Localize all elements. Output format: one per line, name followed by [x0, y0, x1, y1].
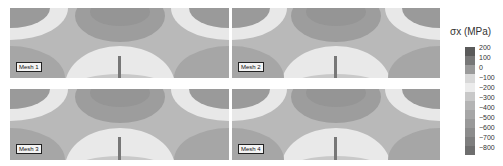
mesh-label: Mesh 1: [16, 62, 42, 72]
colorbar-tick: −700: [479, 134, 495, 142]
contour-panel-mesh-2: Mesh 2: [232, 8, 440, 78]
colorbar-tick: −300: [479, 94, 495, 102]
colorbar-tick: −400: [479, 104, 495, 112]
colorbar-tick: −600: [479, 124, 495, 132]
stress-contour-plot: [10, 8, 229, 78]
colorbar-tick: 200: [479, 44, 491, 52]
colorbar-tick: −100: [479, 74, 495, 82]
colorbar-tick: −200: [479, 84, 495, 92]
colorbar: [465, 47, 475, 155]
colorbar-tick: −800: [479, 144, 495, 152]
contour-panel-mesh-3: Mesh 3: [10, 89, 229, 160]
colorbar-tick: 100: [479, 54, 491, 62]
stress-contour-plot: [10, 89, 229, 160]
contour-panel-mesh-1: Mesh 1: [10, 8, 229, 78]
colorbar-tick: 0: [479, 64, 483, 72]
mesh-label: Mesh 4: [238, 144, 264, 154]
colorbar-tick: −500: [479, 114, 495, 122]
mesh-label: Mesh 2: [238, 62, 264, 72]
colorbar-title: σx (MPa): [450, 26, 491, 37]
contour-panel-mesh-4: Mesh 4: [232, 89, 440, 160]
mesh-label: Mesh 3: [16, 144, 42, 154]
